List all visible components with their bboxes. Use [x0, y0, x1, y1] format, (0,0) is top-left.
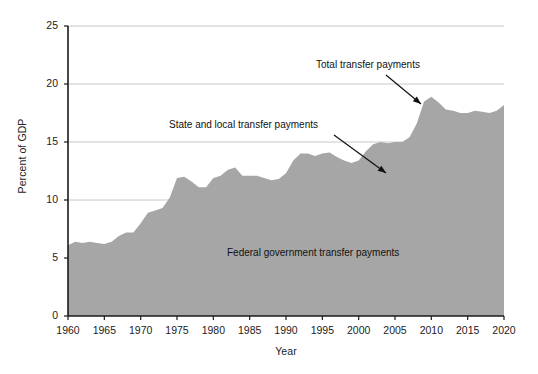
area-chart-plot: [0, 0, 538, 374]
y-tick-label-25: 25: [34, 19, 58, 31]
x-tick-label-2015: 2015: [448, 324, 488, 336]
x-tick-label-1960: 1960: [48, 324, 88, 336]
y-tick-label-15: 15: [34, 135, 58, 147]
annotation-label-state-and-local-transfer-payments: State and local transfer payments: [169, 119, 318, 130]
x-tick-label-2000: 2000: [339, 324, 379, 336]
chart-figure: Percent of GDP Year 0510152025 196019651…: [0, 0, 538, 374]
x-tick-label-2005: 2005: [375, 324, 415, 336]
x-tick-label-1965: 1965: [84, 324, 124, 336]
x-tick-label-1995: 1995: [302, 324, 342, 336]
y-tick-label-10: 10: [34, 193, 58, 205]
x-tick-label-1975: 1975: [157, 324, 197, 336]
x-tick-label-2020: 2020: [484, 324, 524, 336]
y-tick-label-20: 20: [34, 77, 58, 89]
annotation-label-federal-government-transfer-payments: Federal government transfer payments: [227, 247, 399, 258]
x-tick-label-1970: 1970: [121, 324, 161, 336]
x-tick-label-1980: 1980: [193, 324, 233, 336]
x-axis-title: Year: [68, 345, 504, 357]
x-tick-label-1990: 1990: [266, 324, 306, 336]
y-tick-label-5: 5: [34, 251, 58, 263]
y-tick-label-0: 0: [34, 309, 58, 321]
x-tick-label-2010: 2010: [411, 324, 451, 336]
annotation-label-total-transfer-payments: Total transfer payments: [316, 59, 420, 70]
y-axis-title: Percent of GDP: [16, 96, 28, 216]
x-tick-label-1985: 1985: [230, 324, 270, 336]
